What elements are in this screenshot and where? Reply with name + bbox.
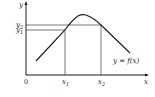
x-axis-label: x [144,78,148,86]
function-curve [36,15,130,61]
y-axis-arrow-icon [25,1,28,5]
origin-label: 0 [24,78,28,86]
function-graph: y x 0 y2 y1 x1 x2 y = f(x) [0,0,155,97]
x2-label: x2 [98,78,105,87]
curve-label: y = f(x) [112,57,140,65]
x1-label: x1 [62,78,69,87]
y-axis-label: y [18,1,24,9]
x-axis-arrow-icon [145,74,149,77]
